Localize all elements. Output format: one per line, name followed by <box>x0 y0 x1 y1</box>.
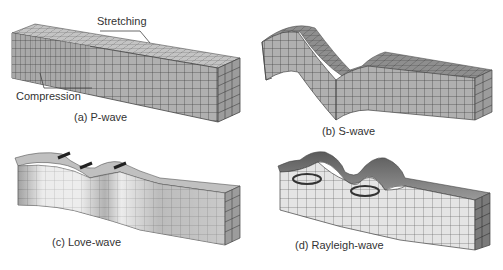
p-wave-block <box>12 24 240 122</box>
love-wave-block <box>15 153 240 245</box>
stretching-annotation: Stretching <box>97 15 147 27</box>
compression-annotation: Compression <box>16 90 81 102</box>
s-wave-block <box>262 26 492 120</box>
rayleigh-wave-caption: (d) Rayleigh-wave <box>295 239 384 251</box>
s-wave-caption: (b) S-wave <box>322 125 375 137</box>
wave-mesh-drawings <box>0 0 503 270</box>
love-wave-caption: (c) Love-wave <box>52 236 121 248</box>
p-wave-caption: (a) P-wave <box>74 111 127 123</box>
seismic-wave-figure: Stretching Compression (a) P-wave (b) S-… <box>0 0 503 270</box>
rayleigh-wave-block <box>278 152 490 250</box>
